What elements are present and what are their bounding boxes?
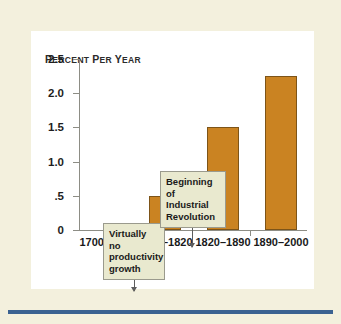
bottom-divider xyxy=(8,310,333,314)
annotation-productivity-line-1: Virtually no xyxy=(109,228,159,251)
x-axis-label-1890-2000: 1890–2000 xyxy=(253,236,308,248)
y-tick-label-0: 0 xyxy=(58,224,64,236)
y-tick-label-2-0: 2.0 xyxy=(48,87,64,99)
y-tick-2-0: 2.0 xyxy=(73,93,80,94)
annotation-arrow-revolution xyxy=(189,243,195,248)
annotation-revolution-line-3: Revolution xyxy=(166,211,220,223)
y-axis-line xyxy=(79,59,80,230)
y-tick-1-0: 1.0 xyxy=(73,162,80,163)
annotation-arrow-productivity xyxy=(131,287,137,292)
y-tick-label-2-5: 2.5 xyxy=(48,53,64,65)
y-tick-0: 0 xyxy=(73,230,80,231)
y-tick-label-0-5: .5 xyxy=(54,190,64,202)
annotation-productivity-line-2: productivity xyxy=(109,251,159,263)
y-tick-2-5: 2.5 xyxy=(73,59,80,60)
y-tick-0-5: .5 xyxy=(73,196,80,197)
y-tick-label-1-5: 1.5 xyxy=(48,121,64,133)
annotation-productivity: Virtually no productivity growth xyxy=(103,223,165,280)
figure-frame: PERCENT PER YEAR 2.5 2.0 1.5 1.0 .5 xyxy=(0,0,341,324)
y-tick-label-1-0: 1.0 xyxy=(48,156,64,168)
annotation-revolution: Beginning of Industrial Revolution xyxy=(160,171,226,228)
y-tick-1-5: 1.5 xyxy=(73,127,80,128)
bar-1890-2000 xyxy=(265,76,297,230)
x-axis-label-1820-1890: 1820–1890 xyxy=(195,236,250,248)
annotation-revolution-line-2: Industrial xyxy=(166,199,220,211)
chart-panel: PERCENT PER YEAR 2.5 2.0 1.5 1.0 .5 xyxy=(31,31,314,289)
annotation-revolution-line-1: Beginning of xyxy=(166,176,220,199)
annotation-productivity-line-3: growth xyxy=(109,263,159,275)
